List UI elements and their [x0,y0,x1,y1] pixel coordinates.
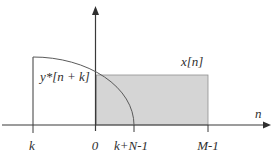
axis-label-n: n [255,106,262,121]
diagram-canvas: y*[n + k] x[n] n k 0 k+N-1 M-1 [0,0,275,156]
tick-label-m-minus-1: M-1 [196,138,219,153]
x-axis-arrowhead-icon [263,122,271,129]
tick-label-0: 0 [92,138,99,153]
y-axis-arrowhead-icon [92,6,99,15]
rect-label: x[n] [180,54,203,69]
tick-label-k: k [29,138,35,153]
signal-correlation-diagram: y*[n + k] x[n] n k 0 k+N-1 M-1 [0,0,275,156]
curve-label: y*[n + k] [38,69,90,84]
tick-label-k-plus-n-minus-1: k+N-1 [114,138,148,153]
shaded-region-xn [97,75,209,125]
